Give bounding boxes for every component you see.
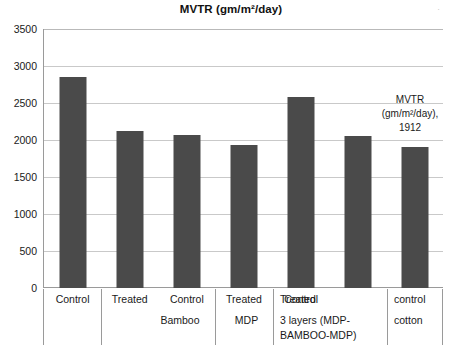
bar-mdp-control[interactable] — [173, 135, 200, 288]
scan-artifact-mark: · — [436, 7, 441, 12]
annotation-line-1: MVTR — [368, 93, 452, 107]
annotation-line-2: (gm/m²/day), — [368, 107, 452, 121]
group-label-bamboo: Bamboo — [140, 313, 220, 328]
category-label-6: Treated — [280, 290, 370, 308]
bar-slot-3 — [158, 29, 215, 288]
bar-slot-1 — [44, 29, 101, 288]
y-tick-2500: 2500 — [0, 97, 37, 109]
data-annotation-cotton: MVTR (gm/m²/day), 1912 — [368, 93, 452, 135]
category-label-2: Treated — [101, 290, 158, 308]
category-label-3: Control — [158, 290, 215, 308]
bar-bamboo-treated[interactable] — [116, 131, 143, 288]
plot-area — [43, 29, 443, 288]
bar-3layers-treated[interactable] — [345, 136, 372, 288]
y-tick-500: 500 — [0, 245, 37, 257]
bar-slot-2 — [101, 29, 158, 288]
group-label-3layers-line2: BAMBOO-MDP) — [280, 328, 400, 343]
bar-slot-6 — [330, 29, 387, 288]
bar-slot-7 — [387, 29, 444, 288]
y-tick-0: 0 — [0, 282, 37, 294]
chart-title: MVTR (gm/m²/day) — [0, 3, 462, 15]
bar-slot-4 — [215, 29, 272, 288]
group-label-cotton: cotton — [394, 313, 454, 328]
annotation-line-3: 1912 — [368, 121, 452, 135]
y-tick-2000: 2000 — [0, 134, 37, 146]
category-label-7: control — [394, 290, 454, 308]
group-label-3layers-line1: 3 layers (MDP- — [280, 313, 390, 328]
category-axis: Control Treated Control Treated Control … — [43, 289, 443, 345]
category-label-4: Treated — [215, 290, 272, 308]
y-tick-1000: 1000 — [0, 208, 37, 220]
bar-slot-5 — [273, 29, 330, 288]
bar-mdp-treated[interactable] — [230, 145, 257, 288]
bar-bamboo-control[interactable] — [59, 77, 86, 288]
group-label-mdp: MDP — [219, 313, 274, 328]
category-label-1: Control — [44, 290, 101, 308]
y-tick-1500: 1500 — [0, 171, 37, 183]
y-tick-3500: 3500 — [0, 23, 37, 35]
chart-container: MVTR (gm/m²/day) · 3500 3000 2500 2000 1… — [0, 0, 462, 362]
bar-cotton-control[interactable] — [402, 147, 429, 288]
bars-layer — [44, 29, 443, 288]
bar-3layers-control[interactable] — [288, 97, 315, 288]
y-tick-3000: 3000 — [0, 60, 37, 72]
